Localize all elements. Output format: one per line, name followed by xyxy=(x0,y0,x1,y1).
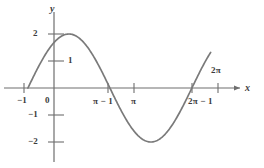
y-tick-label-1: 1 xyxy=(68,56,73,65)
graph-canvas xyxy=(0,0,264,168)
x-axis-arrowhead xyxy=(234,86,240,91)
x-tick-label-2pi: 2π xyxy=(211,66,221,75)
x-tick-label-pi: π xyxy=(131,97,136,106)
x-axis-label: x xyxy=(245,82,250,93)
y-axis-label: y xyxy=(50,3,54,14)
y-tick-label-2: 2 xyxy=(33,29,38,38)
y-tick-label-minus-1: −1 xyxy=(28,110,38,119)
x-tick-label-pi-minus-1: π − 1 xyxy=(93,97,113,106)
x-tick-label-0: 0 xyxy=(45,96,50,105)
y-tick-label-minus-2: −2 xyxy=(28,137,38,146)
function-graph-figure: y x 2 1 −1 −2 −1 0 π − 1 π 2π − 1 2π xyxy=(0,0,264,168)
x-tick-label-minus-1: −1 xyxy=(17,96,27,105)
x-tick-label-2pi-minus-1: 2π − 1 xyxy=(188,97,213,106)
